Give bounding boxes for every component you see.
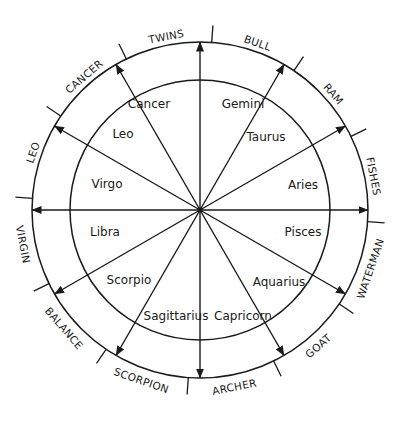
sign-label-scorpio: Scorpio (107, 273, 152, 287)
tick-mark (47, 107, 61, 117)
constellation-label-balance: BALANCE (43, 305, 86, 352)
sign-label-pisces: Pisces (285, 225, 322, 239)
tick-mark (15, 197, 32, 198)
tick-mark (119, 44, 126, 59)
constellation-label-bull: BULL (243, 32, 273, 52)
tick-mark (34, 284, 49, 291)
sign-label-taurus: Taurus (245, 130, 285, 144)
sign-label-leo: Leo (112, 127, 133, 141)
tick-mark (339, 304, 353, 314)
sign-label-virgo: Virgo (92, 177, 123, 191)
sign-label-gemini: Gemini (222, 97, 265, 111)
constellation-label-waterman: WATERMAN (354, 237, 386, 301)
constellation-label-virgin: VIRGIN (14, 224, 33, 264)
sign-label-libra: Libra (90, 225, 120, 239)
tick-mark (351, 129, 366, 136)
zodiac-wheel: CancerGeminiLeoTaurusVirgoAriesLibraPisc… (0, 0, 412, 422)
constellation-label-goat: GOAT (303, 331, 334, 360)
constellation-label-scorpion: SCORPION (112, 365, 170, 395)
constellation-label-ram: RAM (321, 81, 346, 107)
tick-mark (187, 378, 188, 395)
sign-label-aries: Aries (288, 178, 318, 192)
tick-mark (368, 222, 385, 223)
sign-label-capricorn: Capricorn (214, 309, 272, 323)
tick-mark (274, 361, 281, 376)
zodiac-diagram: CancerGeminiLeoTaurusVirgoAriesLibraPisc… (0, 0, 412, 422)
tick-mark (97, 349, 107, 363)
sign-label-sagittarius: Sagittarius (144, 309, 209, 323)
tick-mark (294, 57, 304, 71)
sign-label-aquarius: Aquarius (253, 275, 306, 289)
tick-mark (212, 25, 213, 42)
sign-label-cancer: Cancer (128, 97, 170, 111)
center-hub (198, 208, 203, 213)
constellation-label-archer: ARCHER (211, 377, 257, 397)
